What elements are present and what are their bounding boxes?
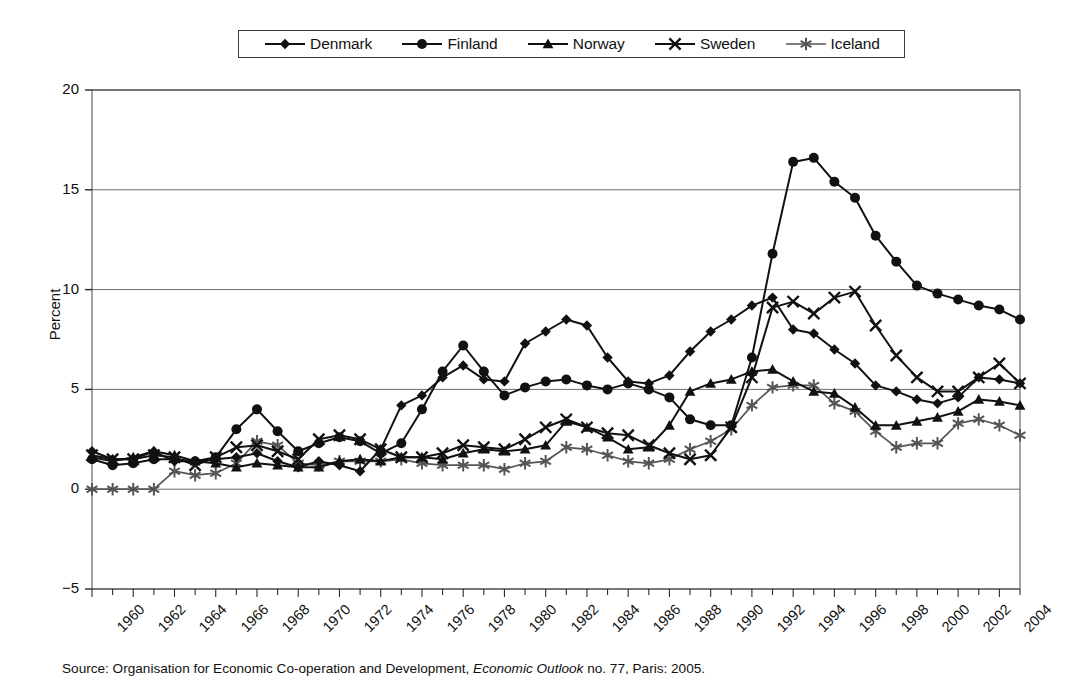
triangle-marker bbox=[850, 402, 861, 412]
circle-marker bbox=[396, 438, 406, 448]
circle-marker bbox=[479, 366, 489, 376]
circle-marker bbox=[912, 281, 922, 291]
diamond-marker bbox=[499, 376, 509, 386]
circle-marker bbox=[231, 424, 241, 434]
series-line-finland bbox=[92, 158, 1020, 465]
circle-marker bbox=[190, 456, 200, 466]
plot-frame bbox=[92, 90, 1020, 589]
diamond-marker bbox=[540, 326, 550, 336]
diamond-marker bbox=[458, 360, 468, 370]
y-tick-label: 0 bbox=[33, 479, 79, 496]
asterisk-marker bbox=[685, 443, 696, 455]
circle-marker bbox=[108, 460, 118, 470]
circle-marker bbox=[747, 352, 757, 362]
circle-marker bbox=[1015, 315, 1025, 325]
circle-marker bbox=[417, 404, 427, 414]
circle-marker bbox=[541, 376, 551, 386]
x-marker bbox=[519, 434, 530, 445]
asterisk-marker bbox=[1015, 429, 1026, 441]
circle-marker bbox=[499, 390, 509, 400]
circle-marker bbox=[582, 380, 592, 390]
circle-marker bbox=[149, 454, 159, 464]
circle-marker bbox=[169, 454, 179, 464]
x-marker bbox=[540, 422, 551, 433]
source-caption: Source: Organisation for Economic Co-ope… bbox=[62, 661, 705, 676]
circle-marker bbox=[603, 384, 613, 394]
circle-marker bbox=[726, 420, 736, 430]
circle-marker bbox=[644, 384, 654, 394]
circle-marker bbox=[273, 426, 283, 436]
circle-marker bbox=[953, 295, 963, 305]
asterisk-marker bbox=[705, 435, 716, 447]
circle-marker bbox=[974, 301, 984, 311]
circle-marker bbox=[623, 378, 633, 388]
circle-marker bbox=[438, 366, 448, 376]
circle-marker bbox=[768, 249, 778, 259]
circle-marker bbox=[685, 414, 695, 424]
circle-marker bbox=[355, 436, 365, 446]
series-line-denmark bbox=[92, 298, 1020, 472]
triangle-marker bbox=[953, 406, 964, 416]
y-tick-label: 15 bbox=[33, 180, 79, 197]
diamond-marker bbox=[788, 324, 798, 334]
source-publication-title: Economic Outlook bbox=[473, 661, 583, 676]
triangle-marker bbox=[788, 376, 799, 386]
circle-marker bbox=[334, 432, 344, 442]
diamond-marker bbox=[912, 394, 922, 404]
source-prefix: Source: Organisation for Economic Co-ope… bbox=[62, 661, 473, 676]
circle-marker bbox=[933, 289, 943, 299]
y-tick-label: −5 bbox=[33, 579, 79, 596]
circle-marker bbox=[314, 438, 324, 448]
diamond-marker bbox=[582, 320, 592, 330]
circle-marker bbox=[458, 340, 468, 350]
y-axis-title: Percent bbox=[46, 255, 63, 375]
x-marker bbox=[911, 372, 922, 383]
diamond-marker bbox=[561, 314, 571, 324]
circle-marker bbox=[520, 382, 530, 392]
circle-marker bbox=[850, 193, 860, 203]
diamond-marker bbox=[932, 398, 942, 408]
diamond-marker bbox=[396, 400, 406, 410]
circle-marker bbox=[871, 231, 881, 241]
circle-marker bbox=[994, 305, 1004, 315]
circle-marker bbox=[829, 177, 839, 187]
diamond-marker bbox=[767, 292, 777, 302]
x-marker bbox=[870, 320, 881, 331]
circle-marker bbox=[664, 392, 674, 402]
x-marker bbox=[994, 358, 1005, 369]
circle-marker bbox=[809, 153, 819, 163]
chart-plot-area bbox=[0, 0, 1073, 700]
circle-marker bbox=[561, 374, 571, 384]
x-marker bbox=[829, 292, 840, 303]
circle-marker bbox=[87, 454, 97, 464]
series-iceland bbox=[87, 379, 1026, 495]
asterisk-marker bbox=[994, 419, 1005, 431]
x-marker bbox=[808, 308, 819, 319]
circle-marker bbox=[891, 257, 901, 267]
x-marker bbox=[891, 350, 902, 361]
series-denmark bbox=[87, 292, 1025, 476]
x-marker bbox=[788, 296, 799, 307]
asterisk-marker bbox=[602, 449, 613, 461]
y-tick-label: 20 bbox=[33, 80, 79, 97]
triangle-marker bbox=[664, 420, 675, 430]
x-marker bbox=[849, 286, 860, 297]
circle-marker bbox=[128, 458, 138, 468]
series-line-sweden bbox=[92, 292, 1020, 466]
circle-marker bbox=[706, 420, 716, 430]
circle-marker bbox=[293, 446, 303, 456]
diamond-marker bbox=[994, 374, 1004, 384]
circle-marker bbox=[376, 448, 386, 458]
unemployment-rate-chart-figure: DenmarkFinlandNorwaySwedenIceland Percen… bbox=[0, 0, 1073, 700]
diamond-marker bbox=[891, 386, 901, 396]
y-tick-label: 10 bbox=[33, 280, 79, 297]
circle-marker bbox=[211, 452, 221, 462]
circle-marker bbox=[788, 157, 798, 167]
diamond-marker bbox=[520, 338, 530, 348]
y-tick-label: 5 bbox=[33, 379, 79, 396]
circle-marker bbox=[252, 404, 262, 414]
source-suffix: no. 77, Paris: 2005. bbox=[583, 661, 705, 676]
